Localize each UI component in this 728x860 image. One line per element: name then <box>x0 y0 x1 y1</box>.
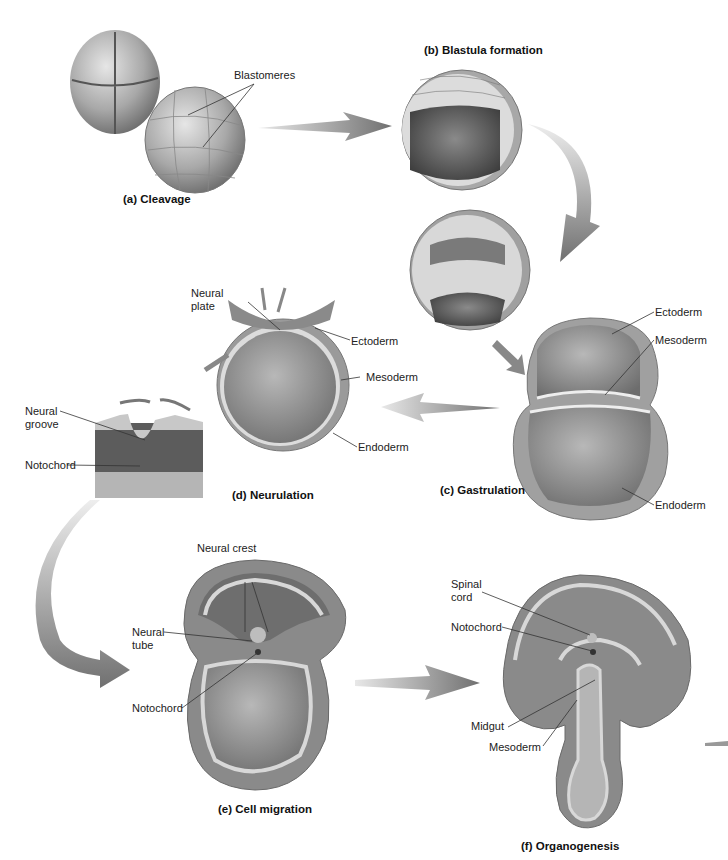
label-neural-groove-line2: groove <box>25 418 59 431</box>
arrow-blastula-to-gastrula <box>528 124 600 262</box>
label-notochord-cell-migration: Notochord <box>132 702 183 715</box>
label-spinal-cord-line1: Spinal <box>451 578 482 591</box>
label-ectoderm-neurulation: Ectoderm <box>351 335 398 348</box>
arrow-cell-migration-to-organogenesis <box>355 665 480 700</box>
label-endoderm-gastrulation: Endoderm <box>655 499 706 512</box>
neural-groove-block <box>95 400 203 498</box>
embryo-development-diagram: Blastomeres (a) Cleavage (b) Blastula fo… <box>0 0 728 860</box>
label-neural-tube-line1: Neural <box>132 626 164 639</box>
arrow-neurulation-to-cell-migration <box>36 500 130 688</box>
early-gastrula-illustration <box>410 210 530 330</box>
label-neural-groove-line1: Neural <box>25 405 59 418</box>
organogenesis-illustration <box>503 575 690 828</box>
label-endoderm-neurulation: Endoderm <box>358 441 409 454</box>
neurulation-illustration <box>205 288 349 451</box>
label-neural-tube-line2: tube <box>132 639 164 652</box>
label-neural-plate-line2: plate <box>191 300 223 313</box>
cell-migration-illustration <box>184 560 346 790</box>
label-neural-plate: Neural plate <box>191 287 223 313</box>
caption-blastula-formation: (b) Blastula formation <box>424 44 543 56</box>
arrow-gastrulation-to-neurulation <box>381 393 500 422</box>
diagram-artwork <box>0 0 728 860</box>
caption-gastrulation: (c) Gastrulation <box>440 484 525 496</box>
caption-cleavage: (a) Cleavage <box>123 193 191 205</box>
label-neural-groove: Neural groove <box>25 405 59 431</box>
label-midgut: Midgut <box>471 720 504 733</box>
label-ectoderm-gastrulation: Ectoderm <box>655 306 702 319</box>
label-neural-plate-line1: Neural <box>191 287 223 300</box>
label-neural-crest: Neural crest <box>197 542 256 555</box>
cleavage-illustration <box>70 30 245 193</box>
label-notochord-organogenesis: Notochord <box>451 621 502 634</box>
label-notochord-neurulation: Notochord <box>25 459 76 472</box>
caption-neurulation: (d) Neurulation <box>232 489 314 501</box>
arrow-to-gastrulation <box>492 340 525 375</box>
label-mesoderm-gastrulation: Mesoderm <box>655 334 707 347</box>
label-spinal-cord-line2: cord <box>451 591 482 604</box>
label-neural-tube: Neural tube <box>132 626 164 652</box>
caption-cell-migration: (e) Cell migration <box>218 803 312 815</box>
gastrulation-illustration <box>513 318 668 520</box>
label-spinal-cord: Spinal cord <box>451 578 482 604</box>
label-mesoderm-neurulation: Mesoderm <box>366 371 418 384</box>
label-blastomeres: Blastomeres <box>234 69 295 82</box>
label-mesoderm-organogenesis: Mesoderm <box>489 741 541 754</box>
blastula-illustration <box>402 70 522 190</box>
caption-organogenesis: (f) Organogenesis <box>521 840 619 852</box>
edge-artifact <box>705 741 728 746</box>
arrow-cleavage-to-blastula <box>258 112 392 141</box>
